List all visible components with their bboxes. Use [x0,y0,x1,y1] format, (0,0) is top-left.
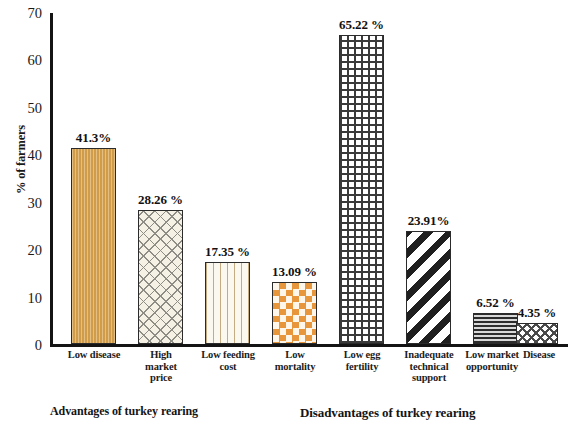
x-label-line: support [381,372,477,384]
x-label-line: opportunity [444,361,540,373]
y-axis-title: % of farmers [14,95,29,225]
bar-value-high-market-price: 28.26 % [138,192,183,208]
x-axis-line [50,344,568,347]
y-tick-10: 10 [28,289,43,306]
y-tick-40: 40 [28,147,43,164]
bar-value-low-egg-fertility: 65.22 % [339,17,384,33]
y-tick-20: 20 [28,242,43,259]
y-tick-30: 30 [28,194,43,211]
x-label-line: Disease [508,349,570,361]
bar-disease: 4.35 % [516,323,558,344]
bar-chart: % of farmers 70 60 50 40 30 20 10 0 41.3… [0,0,573,426]
bar-low-feeding-cost: 17.35 % [205,262,250,344]
bar-low-market-opportunity: 6.52 % [473,313,518,344]
plot-area: 70 60 50 40 30 20 10 0 41.3% 28.26 % 17.… [50,13,568,345]
y-tick-70: 70 [28,5,43,22]
bar-value-disease: 4.35 % [518,305,556,321]
bar-high-market-price: 28.26 % [138,210,183,344]
y-tick-50: 50 [28,99,43,116]
bar-value-low-feeding-cost: 17.35 % [205,244,250,260]
bar-low-mortality: 13.09 % [272,282,317,344]
bar-low-disease: 41.3% [71,148,116,344]
x-label-line: price [113,372,209,384]
bar-inadequate-technical-support: 23.91% [406,231,451,344]
x-label-disease: Disease [508,349,570,361]
bar-value-low-disease: 41.3% [76,130,111,146]
y-axis-line [50,13,53,346]
bar-low-egg-fertility: 65.22 % [339,35,384,344]
bar-value-inadequate-technical-support: 23.91% [408,213,450,229]
caption-disadvantages: Disadvantages of turkey rearing [300,405,475,421]
y-tick-60: 60 [28,52,43,69]
y-tick-0: 0 [35,337,42,354]
bar-value-low-market-opportunity: 6.52 % [476,295,514,311]
caption-advantages: Advantages of turkey rearing [50,404,198,419]
bar-value-low-mortality: 13.09 % [272,264,317,280]
